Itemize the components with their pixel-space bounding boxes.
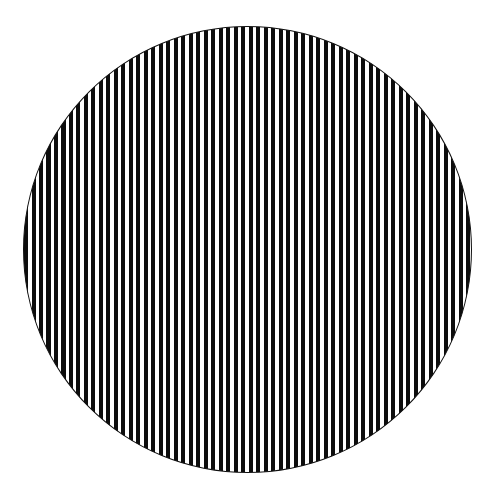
striped-circle [23, 26, 472, 473]
